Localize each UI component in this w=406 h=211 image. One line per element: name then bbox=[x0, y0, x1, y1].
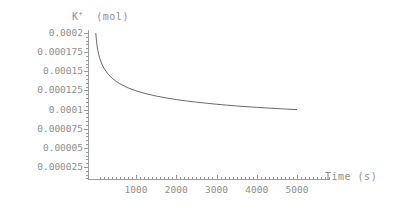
x-axis-label: Time (s) bbox=[325, 172, 377, 182]
chart-plot-area: K+ (mol) 0.0000250.000050.0000750.00010.… bbox=[0, 0, 406, 211]
data-series-line bbox=[96, 33, 297, 110]
x-axis-group bbox=[89, 175, 331, 180]
y-axis-major-ticks bbox=[84, 34, 89, 168]
y-axis-group bbox=[84, 30, 89, 180]
